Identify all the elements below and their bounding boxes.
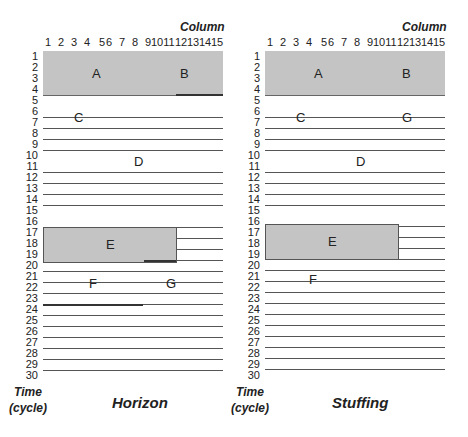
row-line [265, 117, 445, 118]
block-label-e: E [106, 237, 115, 252]
col-num: 13 [187, 36, 199, 48]
col-num: 3 [290, 36, 302, 48]
block-label-d: D [356, 154, 365, 169]
col-num: 4 [81, 36, 93, 48]
horizon-panel: Column 1 2 3 4 5 6 7 8 9 10 11 12 13 14 … [0, 0, 234, 437]
row-line [265, 358, 445, 359]
row-line [43, 194, 223, 195]
row-line [398, 237, 445, 238]
row-line [43, 139, 223, 140]
column-axis-title: Column [402, 20, 447, 34]
block-label-e: E [328, 234, 337, 249]
col-num: 12 [175, 36, 187, 48]
col-num: 11 [385, 36, 397, 48]
block-label-a: A [314, 66, 323, 81]
row-line [265, 139, 445, 140]
block-ab [43, 51, 223, 96]
row-line [43, 128, 223, 129]
col-num: 14 [199, 36, 211, 48]
row-line [265, 194, 445, 195]
row-line [265, 281, 445, 282]
block-label-b: B [180, 66, 189, 81]
time-axis-label: Time (cycle) [4, 384, 52, 416]
row-line [176, 238, 223, 239]
block-label-b: B [402, 66, 411, 81]
col-num: 6 [103, 36, 115, 48]
column-numbers: 1 2 3 4 5 6 7 8 9 10 11 12 13 14 15 [0, 36, 234, 50]
row-line [43, 359, 223, 360]
row-line [176, 260, 223, 261]
row-line [43, 326, 223, 327]
column-numbers: 1 2 3 4 5 6 7 8 9 10 11 12 13 14 15 [222, 36, 456, 50]
row-line [265, 369, 445, 370]
col-num: 11 [163, 36, 175, 48]
row-line [265, 183, 445, 184]
time-label-line2: (cycle) [4, 400, 52, 416]
stuffing-panel: Column 1 2 3 4 5 6 7 8 9 10 11 12 13 14 … [222, 0, 456, 437]
block-e-bottom-edge [144, 260, 176, 262]
time-label-line2: (cycle) [226, 400, 274, 416]
col-num: 14 [421, 36, 433, 48]
time-label-line1: Time [226, 384, 274, 400]
block-label-c: C [74, 110, 83, 125]
row-line [265, 270, 445, 271]
block-b-bottom-edge [176, 94, 223, 96]
col-num: 10 [151, 36, 163, 48]
column-axis-title: Column [180, 20, 225, 34]
time-label-line1: Time [4, 384, 52, 400]
row-line [265, 292, 445, 293]
block-f-bottom-edge [43, 304, 143, 306]
row-line [43, 348, 223, 349]
col-num: 7 [338, 36, 350, 48]
block-label-f: F [89, 276, 97, 291]
block-label-d: D [134, 154, 143, 169]
row-line [398, 226, 445, 227]
col-num: 1 [264, 36, 276, 48]
col-num: 15 [433, 36, 445, 48]
row-line [265, 325, 445, 326]
row-line [176, 227, 223, 228]
row-line [265, 303, 445, 304]
row-line [176, 249, 223, 250]
row-line [43, 370, 223, 371]
row-line [43, 150, 223, 151]
row-line [265, 347, 445, 348]
block-label-c: C [296, 110, 305, 125]
col-num: 2 [277, 36, 289, 48]
col-num: 12 [397, 36, 409, 48]
row-line [265, 172, 445, 173]
panel-title-stuffing: Stuffing [332, 394, 388, 411]
row-line [43, 205, 223, 206]
time-axis-label: Time (cycle) [226, 384, 274, 416]
block-label-f: F [309, 272, 317, 287]
col-num: 2 [55, 36, 67, 48]
row-line [398, 259, 445, 260]
row-line [265, 150, 445, 151]
col-num: 6 [325, 36, 337, 48]
block-label-g: G [166, 276, 176, 291]
row-label: 30 [14, 370, 38, 381]
col-num: 4 [303, 36, 315, 48]
col-num: 8 [129, 36, 141, 48]
row-line [43, 172, 223, 173]
row-line [43, 117, 223, 118]
row-line [43, 282, 223, 283]
col-num: 1 [42, 36, 54, 48]
row-line [43, 337, 223, 338]
row-line [43, 293, 223, 294]
block-ab [265, 51, 445, 96]
row-line [43, 183, 223, 184]
row-line [265, 205, 445, 206]
row-line [43, 271, 223, 272]
row-line [265, 128, 445, 129]
row-line [265, 336, 445, 337]
block-label-a: A [92, 66, 101, 81]
row-line [43, 315, 223, 316]
block-label-g: G [402, 110, 412, 125]
row-line [398, 248, 445, 249]
col-num: 3 [68, 36, 80, 48]
col-num: 7 [116, 36, 128, 48]
col-num: 8 [351, 36, 363, 48]
col-num: 10 [373, 36, 385, 48]
row-line [265, 314, 445, 315]
